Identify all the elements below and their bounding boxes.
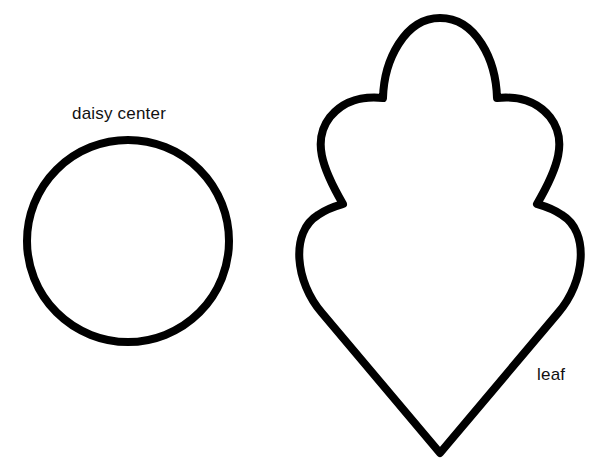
leaf-outline bbox=[299, 18, 581, 453]
template-canvas bbox=[0, 0, 605, 466]
daisy-center-outline bbox=[27, 140, 229, 342]
leaf-label: leaf bbox=[537, 365, 565, 385]
daisy-center-label: daisy center bbox=[72, 104, 166, 124]
